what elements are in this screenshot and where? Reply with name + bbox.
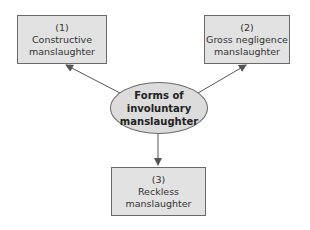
node-label-line2: manslaughter	[214, 46, 280, 58]
arrow-to-node-1	[66, 65, 120, 93]
node-label-line2: manslaughter	[125, 198, 191, 210]
node-number: (1)	[55, 22, 68, 34]
node-label-line1: Reckless	[138, 186, 179, 198]
node-number: (2)	[240, 22, 253, 34]
center-label-line2: involuntary	[127, 102, 192, 115]
node-label-line1: Constructive	[32, 34, 92, 46]
center-node-forms: Forms of involuntary manslaughter	[110, 82, 208, 134]
node-number: (3)	[152, 174, 165, 186]
node-gross-negligence-manslaughter: (2) Gross negligence manslaughter	[204, 15, 290, 64]
center-label-line3: manslaughter	[120, 115, 198, 128]
node-constructive-manslaughter: (1) Constructive manslaughter	[17, 15, 107, 64]
node-label-line2: manslaughter	[29, 46, 95, 58]
node-reckless-manslaughter: (3) Reckless manslaughter	[111, 167, 206, 216]
center-label-line1: Forms of	[134, 89, 183, 102]
arrow-to-node-2	[198, 65, 246, 93]
node-label-line1: Gross negligence	[206, 34, 288, 46]
